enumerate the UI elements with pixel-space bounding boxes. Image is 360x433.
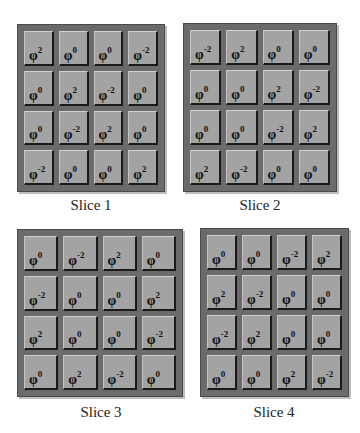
phi-exponent: -2 — [77, 250, 85, 260]
grid-cell: φ0 — [59, 31, 89, 66]
grid-cell: φ-2 — [226, 150, 257, 185]
phi-symbol: φ0 — [317, 293, 330, 307]
phi-exponent: 2 — [38, 45, 43, 55]
phi-exponent: 2 — [107, 124, 112, 134]
phi-base: φ — [268, 127, 277, 142]
phi-symbol: φ-2 — [68, 254, 84, 268]
phi-symbol: φ2 — [29, 49, 42, 63]
grid-cell: φ0 — [24, 111, 54, 146]
phi-base: φ — [317, 372, 326, 387]
phi-base: φ — [147, 332, 156, 347]
phi-symbol: φ2 — [68, 373, 81, 387]
grid-cell: φ-2 — [24, 276, 58, 311]
phi-base: φ — [133, 167, 142, 182]
grid-cell: φ2 — [24, 316, 58, 351]
phi-base: φ — [247, 292, 256, 307]
grid-cell: φ0 — [94, 31, 124, 66]
phi-symbol: φ0 — [247, 373, 260, 387]
phi-symbol: φ0 — [317, 333, 330, 347]
phi-exponent: 0 — [221, 249, 226, 259]
phi-symbol: φ0 — [195, 128, 208, 142]
phi-base: φ — [212, 332, 221, 347]
phi-symbol: φ0 — [133, 128, 146, 142]
grid-cell: φ2 — [299, 110, 330, 145]
phi-exponent: -2 — [73, 124, 81, 134]
phi-exponent: -2 — [116, 369, 124, 379]
phi-symbol: φ0 — [282, 333, 295, 347]
phi-exponent: 2 — [116, 250, 121, 260]
phi-exponent: 2 — [291, 369, 296, 379]
slice-4-grid: φ0φ0φ-2φ2φ2φ-2φ0φ0φ-2φ2φ0φ0φ0φ0φ2φ-2 — [200, 228, 349, 397]
grid-cell: φ0 — [63, 276, 97, 311]
phi-symbol: φ-2 — [99, 89, 115, 103]
phi-symbol: φ2 — [64, 89, 77, 103]
grid-cell: φ0 — [24, 71, 54, 106]
grid-cell: φ2 — [63, 355, 97, 390]
phi-symbol: φ2 — [212, 293, 225, 307]
phi-base: φ — [282, 332, 291, 347]
phi-base: φ — [304, 167, 313, 182]
grid-cell: φ0 — [24, 355, 58, 390]
phi-exponent: -2 — [107, 85, 115, 95]
phi-symbol: φ0 — [147, 254, 160, 268]
phi-exponent: 2 — [142, 164, 147, 174]
phi-base: φ — [29, 293, 38, 308]
grid-cell: φ-2 — [277, 235, 307, 270]
phi-symbol: φ0 — [304, 48, 317, 62]
phi-base: φ — [29, 372, 38, 387]
phi-symbol: φ0 — [68, 333, 81, 347]
phi-exponent: 0 — [77, 290, 82, 300]
phi-symbol: φ2 — [304, 128, 317, 142]
phi-exponent: -2 — [276, 124, 284, 134]
grid-cell: φ-2 — [59, 111, 89, 146]
phi-base: φ — [99, 88, 108, 103]
phi-symbol: φ0 — [99, 49, 112, 63]
phi-base: φ — [195, 127, 204, 142]
phi-base: φ — [108, 293, 117, 308]
phi-base: φ — [304, 47, 313, 62]
phi-base: φ — [304, 87, 313, 102]
phi-exponent: 0 — [326, 329, 331, 339]
phi-exponent: 0 — [313, 44, 318, 54]
phi-exponent: 2 — [326, 249, 331, 259]
phi-exponent: 2 — [77, 369, 82, 379]
phi-exponent: -2 — [38, 290, 46, 300]
phi-base: φ — [247, 332, 256, 347]
grid-cell: φ-2 — [128, 31, 158, 66]
grid-cell: φ2 — [207, 275, 237, 310]
phi-exponent: 0 — [156, 250, 161, 260]
grid-cell: φ0 — [190, 70, 221, 105]
phi-symbol: φ0 — [231, 88, 244, 102]
phi-base: φ — [64, 127, 73, 142]
phi-base: φ — [195, 47, 204, 62]
phi-exponent: 0 — [221, 369, 226, 379]
phi-symbol: φ0 — [231, 128, 244, 142]
grid-cell: φ-2 — [94, 71, 124, 106]
phi-exponent: 0 — [38, 85, 43, 95]
slice-1-label: Slice 1 — [31, 197, 151, 214]
grid-cell: φ-2 — [312, 355, 342, 390]
grid-cell: φ2 — [103, 236, 137, 271]
phi-exponent: 0 — [256, 249, 261, 259]
grid-cell: φ0 — [142, 236, 176, 271]
phi-symbol: φ0 — [212, 253, 225, 267]
phi-base: φ — [68, 293, 77, 308]
phi-symbol: φ-2 — [133, 49, 149, 63]
phi-base: φ — [231, 167, 240, 182]
phi-symbol: φ-2 — [108, 373, 124, 387]
phi-exponent: 2 — [256, 329, 261, 339]
phi-base: φ — [99, 48, 108, 63]
grid-cell: φ2 — [226, 30, 257, 65]
phi-base: φ — [99, 167, 108, 182]
phi-exponent: 0 — [256, 369, 261, 379]
phi-exponent: 0 — [73, 164, 78, 174]
phi-base: φ — [317, 332, 326, 347]
slice-2-grid: φ-2φ2φ0φ0φ0φ0φ2φ-2φ0φ0φ-2φ2φ2φ-2φ0φ0 — [183, 23, 337, 192]
phi-symbol: φ-2 — [147, 333, 163, 347]
phi-exponent: 2 — [38, 329, 43, 339]
phi-base: φ — [108, 253, 117, 268]
phi-symbol: φ0 — [147, 373, 160, 387]
phi-symbol: φ2 — [147, 294, 160, 308]
grid-cell: φ2 — [263, 70, 294, 105]
phi-exponent: 0 — [313, 164, 318, 174]
